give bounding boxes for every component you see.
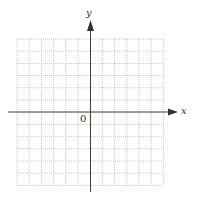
y-axis-label: y bbox=[86, 8, 92, 18]
x-axis-label: x bbox=[181, 106, 187, 116]
y-axis-arrow-icon bbox=[87, 20, 94, 31]
coordinate-plane bbox=[0, 0, 197, 197]
x-axis-arrow-icon bbox=[168, 109, 178, 116]
origin-label: 0 bbox=[80, 114, 86, 124]
